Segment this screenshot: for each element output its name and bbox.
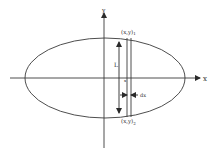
point-2-text: (x,y) [121, 118, 133, 125]
ellipse-strip-diagram: x y (x,y)1 (x,y)2 L x dx [0, 0, 214, 155]
point-1-text: (x,y) [121, 29, 133, 36]
point-1-label: (x,y)1 [121, 29, 136, 36]
dx-label: dx [140, 92, 146, 98]
point-2-subscript: 2 [133, 121, 136, 126]
point-2-label: (x,y)2 [121, 118, 136, 126]
length-label: L [114, 61, 118, 68]
y-axis-label: y [101, 6, 106, 14]
point-1-subscript: 1 [133, 31, 136, 36]
x-axis-label: x [203, 75, 207, 83]
